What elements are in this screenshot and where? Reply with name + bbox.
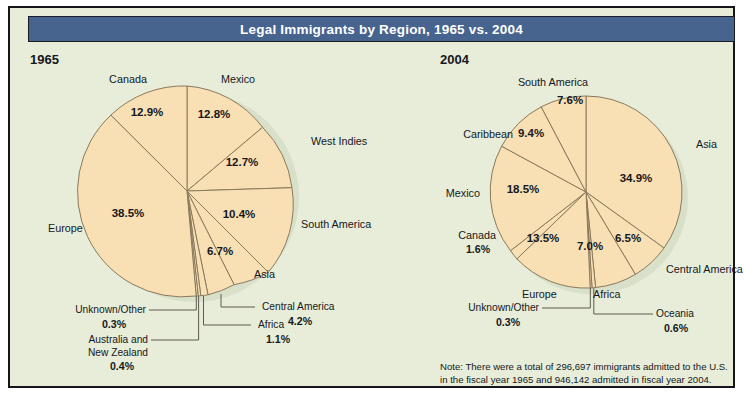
label-canada: Canada (458, 229, 496, 241)
label-oceania: Oceania (656, 308, 694, 319)
label-mexico: Mexico (221, 73, 255, 85)
pct-australia-nz: 0.4% (110, 360, 135, 372)
label-australia-nz-line2: New Zealand (88, 347, 148, 358)
pie-chart-2004: 34.9% 6.5% 7.0% 13.5% 18.5% 9.4% 7.6% As… (418, 42, 745, 394)
label-caribbean: Caribbean (463, 128, 513, 140)
label-europe: Europe (522, 288, 557, 300)
note-line-1: Note: There were a total of 296,697 immi… (440, 360, 740, 373)
pct-unknown-other: 0.3% (102, 318, 127, 330)
leader-australia-nz (151, 296, 199, 340)
pct-south-america: 7.6% (557, 94, 583, 106)
label-australia-nz-line1: Australia and (89, 334, 149, 345)
pct-africa: 1.1% (266, 333, 291, 345)
pct-oceania: 0.6% (664, 322, 689, 334)
label-europe: Europe (48, 222, 83, 234)
pct-canada: 1.6% (466, 243, 491, 255)
pct-europe: 13.5% (527, 232, 560, 244)
label-south-america: South America (301, 218, 371, 230)
pct-caribbean: 9.4% (518, 127, 544, 139)
label-south-america: South America (518, 76, 588, 88)
label-canada: Canada (109, 73, 147, 85)
pct-asia: 6.7% (207, 245, 233, 257)
pct-africa: 7.0% (577, 240, 603, 252)
label-africa: Africa (593, 288, 621, 300)
chart-note: Note: There were a total of 296,697 immi… (440, 360, 740, 386)
label-west-indies: West Indies (311, 135, 368, 147)
pct-west-indies: 12.7% (226, 156, 259, 168)
pct-unknown-other: 0.3% (496, 316, 521, 328)
pct-central-america: 6.5% (615, 232, 641, 244)
chart-title-bar: Legal Immigrants by Region, 1965 vs. 200… (28, 16, 735, 42)
panel-1965: 1965 (18, 42, 418, 394)
pct-south-america: 10.4% (223, 208, 256, 220)
label-unknown-other: Unknown/Other (468, 302, 539, 313)
panel-2004: 2004 (418, 42, 745, 394)
label-central-america: Central America (262, 301, 335, 312)
label-asia: Asia (254, 268, 275, 280)
page-title: Legal Immigrants by Region, 1965 vs. 200… (240, 22, 523, 37)
pct-asia: 34.9% (620, 172, 653, 184)
figure-frame: Legal Immigrants by Region, 1965 vs. 200… (8, 6, 735, 388)
pct-mexico: 18.5% (507, 183, 540, 195)
pct-canada: 12.9% (131, 106, 164, 118)
pie-chart-1965: 12.9% 12.8% 12.7% 10.4% 6.7% 38.5% Canad… (18, 42, 418, 394)
note-line-2: in the fiscal year 1965 and 946,142 admi… (440, 373, 740, 386)
pct-central-america: 4.2% (288, 315, 313, 327)
label-unknown-other: Unknown/Other (75, 304, 146, 315)
pct-europe: 38.5% (112, 207, 145, 219)
label-asia: Asia (696, 138, 717, 150)
label-central-america: Central America (666, 263, 743, 275)
label-mexico: Mexico (446, 187, 480, 199)
label-africa: Africa (258, 319, 284, 330)
pct-mexico: 12.8% (198, 108, 231, 120)
